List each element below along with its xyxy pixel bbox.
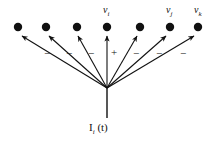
fan-arrow-6 [107, 36, 166, 88]
node-dot-1 [14, 23, 22, 31]
fan-arrow-7 [107, 36, 194, 88]
fan-arrow-5 [107, 36, 137, 88]
fan-arrow-2 [49, 36, 107, 88]
node-label-vi: vi [103, 5, 109, 18]
figure-canvas [0, 0, 219, 142]
node-dot-7-vk [194, 23, 202, 31]
sign-label-arrow-4: + [111, 47, 117, 58]
fan-arrow-1 [22, 36, 107, 88]
sign-label-arrow-6: − [156, 48, 162, 59]
node-dot-5 [136, 23, 144, 31]
input-label: Ii (t) [89, 122, 108, 136]
node-dot-3 [73, 23, 81, 31]
node-dots-group [14, 23, 202, 31]
fan-arrow-3 [78, 36, 107, 88]
sign-label-arrow-1: − [44, 48, 50, 59]
figure-root: vi vj vk − − − + − − − Ii (t) [0, 0, 219, 142]
sign-label-arrow-2: − [66, 48, 72, 59]
sign-label-arrow-7: − [180, 48, 186, 59]
node-label-vk: vk [194, 5, 202, 18]
sign-label-arrow-5: − [133, 48, 139, 59]
node-dot-2 [42, 23, 50, 31]
node-label-vj: vj [166, 5, 172, 18]
sign-label-arrow-3: − [88, 48, 94, 59]
node-dot-4-vi [103, 23, 111, 31]
node-dot-6-vj [166, 23, 174, 31]
fan-arrows-group [22, 36, 194, 88]
